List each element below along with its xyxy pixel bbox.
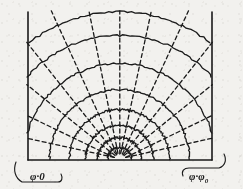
phi-zero-label: φ·0	[30, 170, 45, 182]
phi-phi0-main: φ·φ	[189, 170, 205, 182]
phi-phi0-subscript: 0	[205, 177, 209, 185]
field-map-figure: φ·0 φ·φ0	[0, 0, 243, 189]
field-map-svg: φ·0 φ·φ0	[0, 0, 243, 189]
